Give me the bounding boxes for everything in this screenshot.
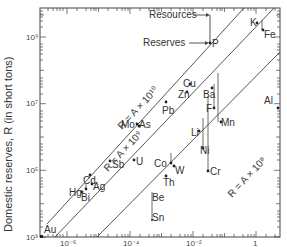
label-p: P	[212, 38, 219, 49]
label-as: As	[139, 119, 151, 130]
reserves-label: Reserves	[143, 37, 185, 48]
label-ag: Ag	[93, 181, 105, 192]
label-zn: Zn	[178, 89, 190, 100]
label-cu: Cu	[183, 78, 196, 89]
label-th: Th	[163, 177, 175, 188]
element-labels: Au P K Fe Cu Zn Ba F Mn Pb Mo As Li Ni C…	[44, 17, 276, 235]
label-mn: Mn	[221, 117, 235, 128]
resources-label: Resources	[149, 9, 197, 20]
label-hg: Hg	[69, 187, 82, 198]
x-tick-label: 1	[253, 239, 258, 247]
x-tick-label: 10⁻⁶	[60, 239, 76, 247]
arrowhead-icon	[205, 41, 209, 45]
x-tick-label: 10⁻²	[186, 239, 202, 247]
label-pb: Pb	[162, 105, 175, 116]
label-bi: Bi	[81, 192, 90, 203]
line-label-1e8: R = A × 10⁸	[225, 155, 268, 200]
y-tick-label: 10³	[26, 233, 38, 242]
arrowhead-icon	[206, 13, 210, 17]
label-ba: Ba	[203, 89, 216, 100]
label-be: Be	[152, 192, 165, 203]
abundance-reserves-chart: 10⁻⁶ 10⁻⁴ 10⁻² 1 10⁹ 10⁷ 10⁵ 10³ Domesti…	[0, 0, 287, 247]
y-axis-title: Domestic reserves, R (in short tons)	[2, 57, 14, 232]
label-sb: Sb	[112, 159, 125, 170]
label-ni: Ni	[200, 145, 209, 156]
label-w: W	[175, 165, 185, 176]
label-co: Co	[154, 158, 167, 169]
label-au: Au	[44, 224, 56, 235]
y-tick-label: 10⁵	[26, 166, 38, 175]
x-tick-label: 10⁻⁴	[123, 239, 140, 247]
data-points	[40, 22, 279, 238]
label-cr: Cr	[210, 166, 221, 177]
label-u: U	[136, 156, 143, 167]
label-fe: Fe	[264, 29, 276, 40]
y-tick-label: 10⁹	[26, 33, 38, 42]
label-mo: Mo	[121, 119, 135, 130]
y-tick-label: 10⁷	[26, 99, 38, 108]
label-sn: Sn	[152, 212, 164, 223]
label-li: Li	[191, 127, 199, 138]
label-k: K	[250, 17, 257, 28]
label-al: Al	[264, 95, 273, 106]
label-f: F	[206, 103, 212, 114]
